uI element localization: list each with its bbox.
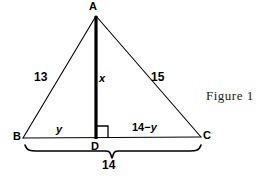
segment-bd-length-label: y	[56, 124, 62, 135]
segment-ac	[96, 16, 201, 137]
base-bc-length-label: 14	[102, 159, 115, 171]
side-ab-length-label: 13	[34, 71, 47, 83]
segment-dc-prefix: 14	[132, 121, 144, 133]
right-angle-marker	[97, 126, 108, 138]
base-brace	[25, 145, 201, 158]
vertex-label-d: D	[91, 141, 99, 152]
segment-bc	[23, 137, 201, 138]
figure-container: A B C D 13 15 x y 14−y 14 Figure 1	[0, 0, 260, 176]
figure-caption: Figure 1	[206, 89, 254, 102]
segment-dc-length-label: 14−y	[132, 122, 157, 133]
vertex-label-c: C	[203, 130, 211, 141]
altitude-length-label: x	[99, 73, 105, 84]
side-ac-length-label: 15	[151, 71, 164, 83]
segment-dc-variable: y	[151, 121, 157, 133]
vertex-label-b: B	[13, 131, 21, 142]
vertex-label-a: A	[89, 1, 97, 12]
